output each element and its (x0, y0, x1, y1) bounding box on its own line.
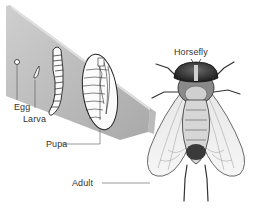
label-larva: Larva (23, 115, 46, 124)
label-horsefly: Horsefly (174, 48, 208, 57)
horsefly-life-cycle-diagram: Egg Larva Pupa Adult Horsefly (0, 0, 260, 208)
label-adult: Adult (72, 179, 93, 188)
label-pupa: Pupa (46, 140, 67, 149)
label-egg: Egg (14, 103, 30, 112)
